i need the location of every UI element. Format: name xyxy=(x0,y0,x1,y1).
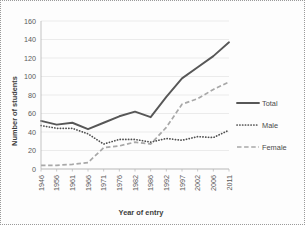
x-tick-label: 1966 xyxy=(84,175,93,191)
x-tick-label: 2002 xyxy=(193,175,202,191)
gridlines xyxy=(41,21,229,169)
x-tick-label: 1946 xyxy=(37,175,46,191)
y-axis-title: Number of students xyxy=(10,76,19,146)
chart-container: 020406080100120140160 194619561961196619… xyxy=(0,0,305,225)
series-line-total xyxy=(41,42,229,129)
y-tick-label: 120 xyxy=(24,54,36,63)
x-axis-tick-labels: 1946195619611966197119761982198619921997… xyxy=(37,175,234,191)
x-tick-label: 1982 xyxy=(131,175,140,191)
legend-label-male: Male xyxy=(262,121,278,130)
x-tick-label: 2011 xyxy=(225,175,234,190)
y-tick-label: 80 xyxy=(28,91,36,100)
y-tick-label: 20 xyxy=(28,146,36,155)
x-tick-label: 1986 xyxy=(146,175,155,191)
y-tick-label: 100 xyxy=(24,72,36,81)
y-axis-tick-labels: 020406080100120140160 xyxy=(24,17,36,174)
plot-series xyxy=(41,42,229,165)
x-tick-label: 1992 xyxy=(162,175,171,191)
line-chart: 020406080100120140160 194619561961196619… xyxy=(1,1,305,225)
legend-label-total: Total xyxy=(262,99,278,108)
x-axis-title: Year of entry xyxy=(119,208,165,217)
x-tick-label: 1976 xyxy=(115,175,124,191)
y-tick-label: 60 xyxy=(28,109,36,118)
x-tick-label: 2006 xyxy=(209,175,218,191)
y-tick-label: 0 xyxy=(32,165,36,174)
x-tick-label: 1961 xyxy=(68,175,77,191)
legend: TotalMaleFemale xyxy=(237,99,287,152)
y-tick-label: 160 xyxy=(24,17,36,26)
x-tick-label: 1997 xyxy=(178,175,187,191)
y-tick-label: 40 xyxy=(28,128,36,137)
y-tick-label: 140 xyxy=(24,35,36,44)
x-tick-label: 1956 xyxy=(52,175,61,191)
series-line-male xyxy=(41,126,229,145)
legend-label-female: Female xyxy=(262,143,287,152)
x-tick-label: 1971 xyxy=(99,175,108,191)
